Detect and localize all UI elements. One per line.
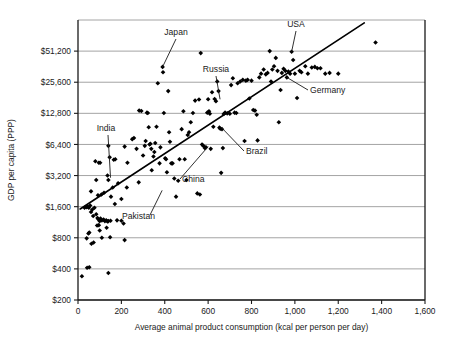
data-point <box>208 147 213 152</box>
data-point <box>149 168 154 173</box>
y-tick-label: $3,200 <box>45 171 71 181</box>
data-point <box>177 157 182 162</box>
data-point <box>89 189 94 194</box>
data-point <box>193 98 198 103</box>
data-point <box>255 138 260 143</box>
data-point <box>124 185 129 190</box>
data-point <box>152 150 157 155</box>
data-point <box>275 69 280 74</box>
data-point <box>119 197 124 202</box>
y-tick-label: $51,200 <box>41 46 72 56</box>
data-point <box>134 147 139 152</box>
data-point <box>166 89 171 94</box>
y-tick-label: $200 <box>52 295 71 305</box>
data-point <box>261 67 266 72</box>
data-point <box>100 235 105 240</box>
annotation-label-russia: Russia <box>203 64 229 74</box>
data-point <box>136 180 141 185</box>
annotation-leader-japan <box>163 39 176 67</box>
x-tick-label: 1,400 <box>371 306 392 316</box>
x-tick-label: 200 <box>114 306 128 316</box>
y-tick-label: $6,400 <box>45 140 71 150</box>
data-point <box>229 83 234 88</box>
data-point <box>221 146 226 151</box>
data-point <box>318 66 323 71</box>
data-point <box>219 171 224 176</box>
annotation-label-pakistan: Pakistan <box>122 211 155 221</box>
x-tick-label: 600 <box>201 306 215 316</box>
data-point <box>231 76 236 81</box>
y-tick-label: $800 <box>52 233 71 243</box>
data-point <box>80 274 85 279</box>
data-point <box>191 111 196 116</box>
data-point <box>149 147 154 152</box>
x-tick-label: 1,600 <box>415 306 436 316</box>
annotation-label-germany: Germany <box>310 85 346 95</box>
data-point <box>306 71 311 76</box>
data-point <box>167 130 172 135</box>
data-point <box>157 161 162 166</box>
data-point <box>141 153 146 158</box>
data-point <box>154 124 159 129</box>
y-tick-label: $1,600 <box>45 202 71 212</box>
y-axis-title: GDP per capita (PPP) <box>6 119 16 201</box>
data-point <box>182 157 187 162</box>
data-point <box>278 88 283 93</box>
annotation-label-usa: USA <box>287 19 305 29</box>
data-point <box>122 238 127 243</box>
data-point <box>109 194 114 199</box>
data-point <box>188 120 193 125</box>
annotation-label-brazil: Brazil <box>246 146 268 156</box>
data-point <box>97 228 102 233</box>
chart-container: $200$400$800$1,600$3,200$6,400$12,800$25… <box>0 0 452 345</box>
data-point <box>105 173 110 178</box>
data-point <box>84 236 89 241</box>
data-point <box>373 40 378 45</box>
data-point <box>267 49 272 54</box>
data-point <box>158 145 163 150</box>
annotation-label-china: China <box>182 174 205 184</box>
data-point <box>174 194 179 199</box>
x-axis-title: Average animal product consumption (kcal… <box>135 322 369 332</box>
data-point <box>104 225 109 230</box>
data-point <box>277 120 282 125</box>
data-point <box>108 235 113 240</box>
x-tick-label: 1,000 <box>284 306 305 316</box>
data-point <box>115 218 120 223</box>
data-point <box>327 71 332 76</box>
data-point <box>151 154 156 159</box>
data-point <box>168 139 173 144</box>
data-point <box>125 161 130 166</box>
data-point <box>179 127 184 132</box>
data-point <box>323 71 328 76</box>
data-point <box>242 139 247 144</box>
data-point <box>161 70 166 75</box>
data-point <box>143 139 148 144</box>
annotation-label-japan: Japan <box>164 27 188 37</box>
annotation-leader-germany <box>287 77 308 90</box>
data-point <box>106 178 111 183</box>
data-point <box>113 202 118 207</box>
x-tick-label: 0 <box>76 306 81 316</box>
data-point <box>206 97 211 102</box>
data-point <box>106 271 111 276</box>
data-point <box>146 125 151 130</box>
x-tick-label: 1,200 <box>328 306 349 316</box>
data-point <box>295 96 300 101</box>
y-tick-label: $25,600 <box>41 77 72 87</box>
data-point <box>210 90 215 95</box>
scatter-plot: $200$400$800$1,600$3,200$6,400$12,800$25… <box>0 0 452 345</box>
data-point <box>273 56 278 61</box>
data-point <box>156 81 161 86</box>
data-point <box>176 178 181 183</box>
x-tick-label: 800 <box>245 306 259 316</box>
data-point <box>162 111 167 116</box>
data-point <box>197 97 202 102</box>
x-tick-label: 400 <box>158 306 172 316</box>
y-tick-label: $400 <box>52 264 71 274</box>
data-point <box>165 170 170 175</box>
annotation-leader-brazil <box>221 127 244 151</box>
data-point <box>211 124 216 129</box>
data-point <box>291 58 296 63</box>
data-point <box>293 71 298 76</box>
